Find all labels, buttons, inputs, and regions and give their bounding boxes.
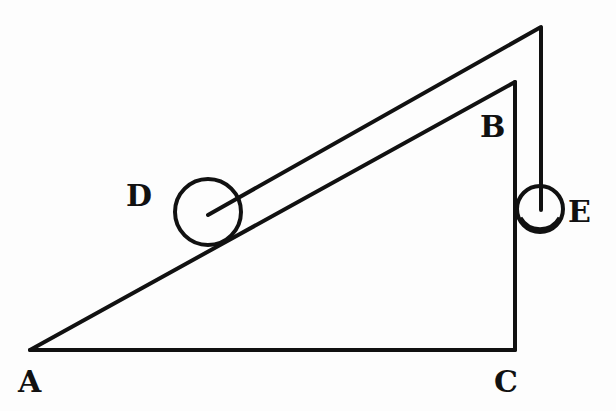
label-a: A (17, 364, 42, 399)
label-b: B (480, 109, 505, 144)
diagram-canvas: A B C D E (0, 0, 616, 411)
weight-e-shadow (520, 218, 560, 230)
label-d: D (126, 178, 152, 213)
hypotenuse-ab (30, 82, 515, 350)
label-c: C (494, 364, 518, 399)
triangle-abc (30, 82, 515, 350)
inclined-plane-diagram: A B C D E (0, 0, 616, 411)
label-e: E (568, 194, 591, 229)
ball-d (175, 179, 241, 245)
